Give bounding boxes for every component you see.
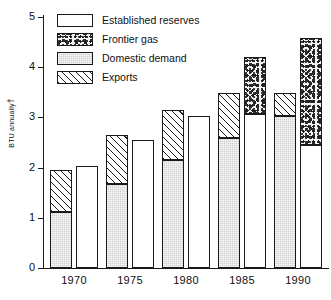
legend-swatch-hatch [57,71,93,84]
x-tick-label: 1970 [47,274,101,286]
bar-segment-exports [106,135,128,184]
bar-1985-right [244,57,266,268]
bar-segment-established-reserves [300,145,322,268]
bar-1990-left [274,93,296,268]
x-axis-line [43,268,329,269]
legend-swatch-speck [57,33,93,46]
legend-label: Exports [102,72,138,83]
bar-segment-exports [218,93,240,138]
y-tick-label: 1 [13,212,35,223]
bar-segment-established-reserves [188,116,210,268]
bar-1980-right [188,116,210,268]
y-tick-label: 0 [13,262,35,273]
x-tick-label: 1975 [103,274,157,286]
legend-label: Established reserves [102,15,199,26]
y-axis-title: BTU annually† [6,81,16,165]
bar-segment-exports [274,93,296,116]
y-tick-label: 3 [13,111,35,122]
bar-segment-exports [162,110,184,160]
y-tick-label: 2 [13,162,35,173]
x-tick-label: 1990 [271,274,325,286]
bar-segment-frontier-gas [244,57,266,115]
bar-1975-left [106,135,128,268]
x-tick-label: 1980 [159,274,213,286]
legend-item-domestic-demand[interactable]: Domestic demand [57,50,199,67]
bar-1985-left [218,93,240,268]
y-tick [38,268,44,269]
bar-segment-established-reserves [76,166,98,268]
legend-swatch-white [57,14,93,27]
bar-1990-right [300,38,322,268]
bar-1975-right [132,140,154,268]
y-tick-label: 4 [13,61,35,72]
chart-legend: Established reservesFrontier gasDomestic… [57,12,199,88]
legend-item-established-reserves[interactable]: Established reserves [57,12,199,29]
y-axis-title-text: BTU annually [8,103,15,147]
legend-item-frontier-gas[interactable]: Frontier gas [57,31,199,48]
legend-label: Domestic demand [102,53,187,64]
bar-segment-domestic-demand [218,138,240,268]
bar-1970-left [50,170,72,268]
bar-segment-exports [50,170,72,212]
bar-segment-established-reserves [244,114,266,268]
bar-segment-domestic-demand [162,160,184,268]
y-axis-title-dagger: † [6,98,16,103]
cropped-title-remnant [0,0,331,5]
bar-segment-domestic-demand [50,212,72,268]
bar-segment-domestic-demand [274,116,296,268]
bar-chart: BTU annually† 012345 1970197519801985199… [0,0,331,300]
bar-1970-right [76,166,98,268]
legend-label: Frontier gas [102,34,158,45]
legend-swatch-gray [57,52,93,65]
y-tick-label: 5 [13,11,35,22]
bar-segment-domestic-demand [106,184,128,268]
legend-item-exports[interactable]: Exports [57,69,199,86]
bar-1980-left [162,110,184,268]
bar-segment-frontier-gas [300,38,322,144]
bar-segment-established-reserves [132,140,154,268]
x-tick-label: 1985 [215,274,269,286]
